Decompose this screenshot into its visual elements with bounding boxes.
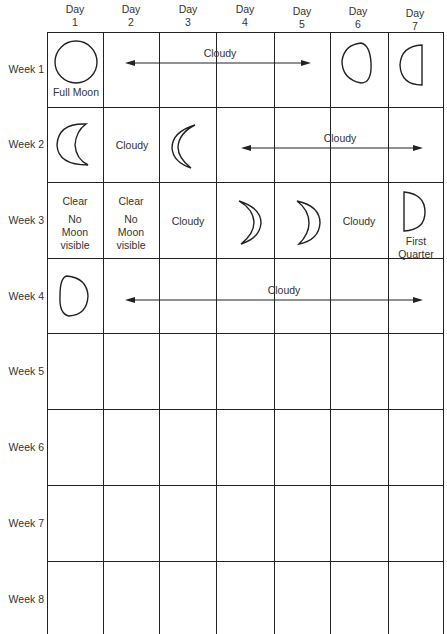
full-moon-label: Full Moon	[48, 86, 104, 99]
waning-crescent-icon	[54, 121, 94, 169]
day-word: Day	[217, 3, 273, 16]
week-label-3: Week 3	[0, 214, 44, 226]
grid-line	[47, 258, 443, 259]
last-quarter-moon-icon	[398, 43, 426, 87]
day-word: Day	[330, 5, 386, 18]
day-header-5: Day5	[274, 5, 330, 31]
grid-line	[47, 561, 443, 562]
no-moon-label: No	[103, 213, 159, 226]
grid-line	[47, 333, 443, 334]
clear-label: Clear	[47, 195, 103, 208]
day-header-4: Day4	[217, 3, 273, 29]
full-moon-icon	[53, 39, 99, 85]
week-label-7: Week 7	[0, 517, 44, 529]
day-number: 3	[160, 16, 216, 29]
first-label: First	[387, 235, 445, 248]
day-header-6: Day6	[330, 5, 386, 31]
week-label-6: Week 6	[0, 441, 44, 453]
waning-gibbous-icon	[339, 41, 375, 85]
thin-waning-crescent-icon	[169, 122, 199, 170]
week-label-1: Week 1	[0, 63, 44, 75]
cloudy-label: Cloudy	[190, 47, 250, 60]
cloudy-label: Cloudy	[331, 215, 387, 228]
no-moon-label: No	[47, 213, 103, 226]
no-moon-label: visible	[47, 239, 103, 252]
grid-line	[47, 107, 443, 108]
no-moon-visible-note: Clear No Moon visible	[103, 195, 159, 252]
cloudy-label: Cloudy	[104, 139, 160, 152]
day-word: Day	[47, 3, 103, 16]
week-label-2: Week 2	[0, 138, 44, 150]
first-quarter-label: First Quarter	[387, 235, 445, 261]
day-header-2: Day2	[103, 3, 159, 29]
cloudy-label: Cloudy	[254, 284, 314, 297]
day-word: Day	[387, 7, 443, 20]
day-number: 4	[217, 16, 273, 29]
day-header-1: Day1	[47, 3, 103, 29]
thin-waxing-crescent-icon	[235, 198, 265, 246]
day-number: 6	[330, 18, 386, 31]
clear-label: Clear	[103, 195, 159, 208]
week-label-8: Week 8	[0, 593, 44, 605]
observation-grid	[47, 32, 443, 634]
week-label-5: Week 5	[0, 365, 44, 377]
grid-line	[47, 409, 443, 410]
cloudy-label: Cloudy	[310, 132, 370, 145]
cloudy-label: Cloudy	[160, 215, 216, 228]
week-label-4: Week 4	[0, 290, 44, 302]
first-quarter-moon-icon	[401, 190, 427, 234]
waxing-crescent-icon	[293, 198, 323, 246]
quarter-label: Quarter	[387, 248, 445, 261]
grid-line	[443, 32, 444, 634]
day-word: Day	[160, 3, 216, 16]
day-number: 1	[47, 16, 103, 29]
grid-line	[47, 182, 443, 183]
day-word: Day	[274, 5, 330, 18]
no-moon-label: Moon	[103, 226, 159, 239]
day-number: 5	[274, 18, 330, 31]
no-moon-visible-note: Clear No Moon visible	[47, 195, 103, 252]
no-moon-label: Moon	[47, 226, 103, 239]
grid-line	[47, 32, 443, 33]
waxing-gibbous-icon	[57, 274, 91, 320]
day-number: 2	[103, 16, 159, 29]
day-header-7: Day7	[387, 7, 443, 33]
grid-line	[47, 485, 443, 486]
day-word: Day	[103, 3, 159, 16]
day-header-3: Day3	[160, 3, 216, 29]
no-moon-label: visible	[103, 239, 159, 252]
